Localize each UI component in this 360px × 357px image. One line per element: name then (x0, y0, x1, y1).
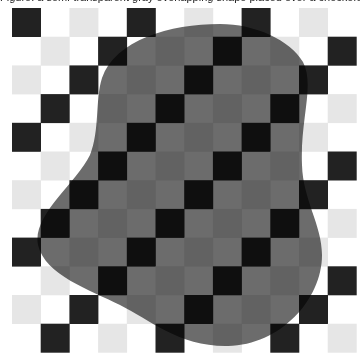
gray-blob-shape (0, 0, 360, 357)
canvas: Figure: a semi-transparent gray overlapp… (0, 0, 360, 357)
blob-outline (37, 24, 322, 346)
